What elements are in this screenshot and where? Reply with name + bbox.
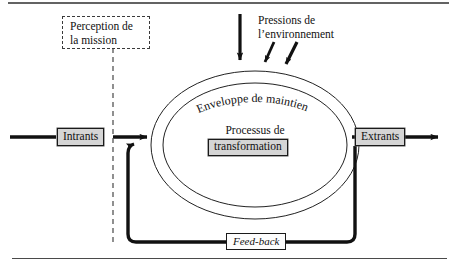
feedback-node[interactable]: Feed-back (226, 233, 286, 250)
transformation-node[interactable]: transformation (208, 139, 288, 156)
extrants-label: Extrants (361, 131, 399, 143)
enveloppe-curved-text: Enveloppe de maintien (194, 91, 310, 116)
processus-line-1: Processus de (225, 124, 284, 138)
intrants-node[interactable]: Intrants (57, 128, 104, 146)
pressure-arrow-3-line (286, 42, 297, 64)
perception-box: Perception de la mission (62, 16, 150, 49)
pressions-label: Pressions de l’environnement (258, 14, 378, 44)
feedback-label: Feed-back (233, 236, 279, 247)
pressure-arrow-2-line (265, 42, 274, 62)
perception-line-2: la mission (70, 34, 143, 48)
pressions-line-1: Pressions de (258, 14, 378, 28)
diagram-canvas: Enveloppe de maintien Perception de la m… (0, 0, 455, 272)
perception-line-1: Perception de (70, 20, 143, 34)
processus-label: Processus de (205, 124, 305, 138)
pressions-line-2: l’environnement (258, 28, 378, 42)
feedback-loop-path (128, 144, 355, 242)
intrants-label: Intrants (63, 131, 98, 143)
extrants-node[interactable]: Extrants (355, 128, 405, 146)
transformation-label: transformation (214, 141, 282, 153)
